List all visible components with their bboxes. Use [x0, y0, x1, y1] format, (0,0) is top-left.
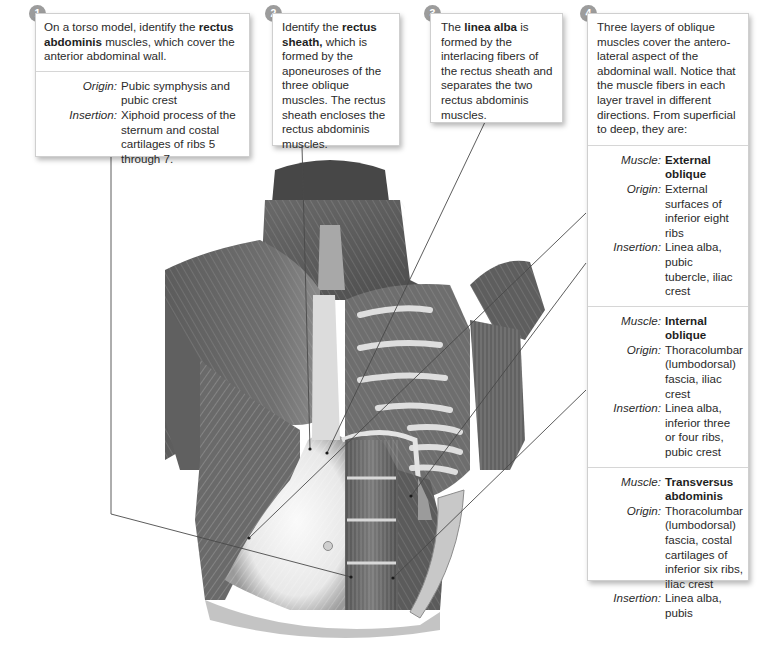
callout-intro: On a torso model, identify the rectus ab… — [36, 14, 249, 71]
origin-label: Origin: — [42, 79, 117, 108]
origin-value: Pubic symphysis and pubic crest — [121, 79, 241, 108]
callout-rectus-sheath: Identify the rectus sheath, which is for… — [272, 13, 400, 146]
origin-value: Thoracolumbar (lumbodorsal) fascia, ilia… — [665, 343, 743, 401]
sternum — [312, 295, 340, 440]
transversus-abdominis-details: Muscle: Transversus abdominis Origin: Th… — [588, 467, 748, 628]
insertion-value: Linea alba, pubis — [665, 591, 743, 620]
muscle-label: Muscle: — [594, 314, 661, 343]
muscle-label: Muscle: — [594, 475, 661, 504]
insertion-label: Insertion: — [594, 401, 661, 459]
muscle-name: External oblique — [665, 153, 740, 182]
insertion-value: Linea alba, pubic tubercle, iliac crest — [665, 240, 740, 298]
umbilicus — [324, 542, 333, 551]
insertion-label: Insertion: — [42, 108, 117, 166]
origin-label: Origin: — [594, 343, 661, 401]
origin-label: Origin: — [594, 504, 661, 592]
origin-value: External surfaces of inferior eight ribs — [665, 182, 740, 240]
callout-oblique-muscles: Three layers of oblique muscles cover th… — [587, 13, 749, 581]
term-linea-alba: linea alba — [464, 20, 517, 33]
muscle-label: Muscle: — [594, 153, 661, 182]
insertion-label: Insertion: — [594, 240, 661, 298]
callout-intro: Identify the rectus sheath, which is for… — [273, 14, 399, 157]
muscle-name: Internal oblique — [665, 314, 743, 343]
callout-linea-alba: The linea alba is formed by the interlac… — [430, 13, 563, 123]
rectus-abdominis-details: Origin: Pubic symphysis and pubic crest … — [36, 71, 249, 174]
origin-label: Origin: — [594, 182, 661, 240]
insertion-label: Insertion: — [594, 591, 661, 620]
insertion-value: Linea alba, inferior three or four ribs,… — [665, 401, 743, 459]
callout-rectus-abdominis: On a torso model, identify the rectus ab… — [35, 13, 250, 157]
internal-oblique-details: Muscle: Internal oblique Origin: Thoraco… — [588, 306, 748, 467]
origin-value: Thoracolumbar (lumbodorsal) fascia, cost… — [665, 504, 743, 592]
insertion-value: Xiphoid process of the sternum and costa… — [121, 108, 241, 166]
external-oblique-details: Muscle: External oblique Origin: Externa… — [588, 145, 748, 306]
muscle-name: Transversus abdominis — [665, 475, 743, 504]
callout-intro: The linea alba is formed by the interlac… — [431, 14, 562, 128]
callout-intro: Three layers of oblique muscles cover th… — [588, 14, 748, 145]
